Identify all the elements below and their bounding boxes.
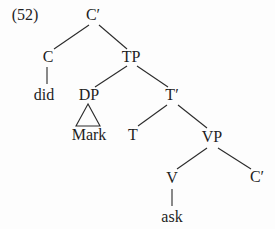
tree-leaf-mark: Mark (72, 127, 107, 143)
dp-triangle (76, 104, 100, 126)
tree-leaf-did: did (34, 87, 54, 103)
syntax-tree-figure: (52) C′ C TP did DP T′ Mark T VP V C′ as… (0, 0, 275, 229)
branch-tbar-to-t (138, 105, 167, 126)
branch-root-to-c (54, 25, 89, 49)
branch-vp-to-v (177, 148, 207, 169)
tree-node-t: T (128, 127, 138, 143)
branch-vp-to-cbar (218, 148, 251, 169)
tree-node-dp: DP (79, 87, 99, 103)
example-number: (52) (12, 7, 39, 23)
tree-lines (0, 0, 275, 229)
tree-node-tp: TP (122, 49, 141, 65)
tree-node-v: V (166, 170, 178, 186)
tree-node-vp: VP (202, 129, 222, 145)
tree-node-cbar-root: C′ (86, 7, 100, 23)
tree-node-cbar-lower: C′ (250, 169, 264, 185)
branch-root-to-tp (99, 25, 127, 49)
tree-leaf-ask: ask (161, 209, 182, 225)
branch-tbar-to-vp (178, 105, 207, 128)
branch-tp-to-tbar (137, 66, 168, 87)
tree-node-tbar: T′ (165, 87, 178, 103)
tree-node-c: C (43, 49, 54, 65)
branch-tp-to-dp (95, 66, 127, 87)
